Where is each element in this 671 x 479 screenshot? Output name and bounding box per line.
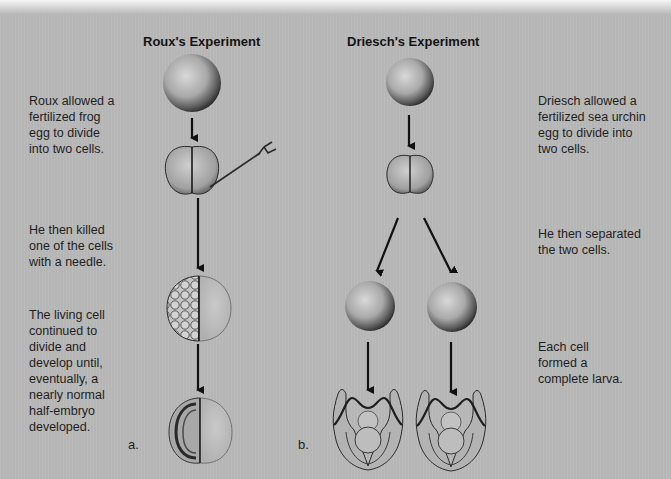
needle-icon [210, 142, 276, 187]
driesch-separated-cells [345, 281, 477, 332]
driesch-larva-right [416, 391, 486, 472]
driesch-two-cell-stage [387, 155, 433, 193]
driesch-arrow-right [424, 218, 451, 272]
roux-fertilized-egg [163, 54, 221, 112]
driesch-fertilized-egg [386, 58, 434, 106]
diagram-artwork [0, 0, 671, 479]
driesch-larva-left [333, 390, 403, 471]
roux-half-divided-embryo [167, 276, 231, 341]
driesch-arrow-left [377, 218, 398, 271]
roux-half-embryo [169, 398, 232, 463]
